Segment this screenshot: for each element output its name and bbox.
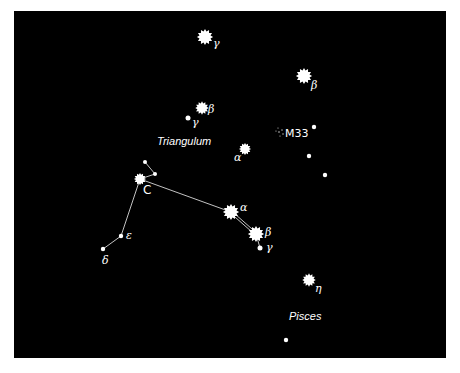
star-psc_dot	[284, 338, 288, 342]
star-dot_r1	[312, 125, 316, 129]
stars	[101, 29, 327, 342]
m33-galaxy-icon	[275, 127, 283, 136]
label-ari-gamma: γ	[266, 242, 273, 253]
label-ari-alpha: α	[240, 202, 247, 213]
label-epsilon: ε	[126, 230, 132, 241]
star-c_top	[143, 160, 147, 164]
label-c: C	[143, 184, 151, 196]
label-tri-gamma: γ	[192, 117, 199, 128]
star-dot_r3	[323, 173, 327, 177]
star-and_beta	[296, 68, 312, 84]
label-psc-eta: η	[315, 283, 322, 294]
star-chart	[0, 0, 460, 373]
label-tri-alpha: α	[234, 152, 241, 163]
star-tri_beta	[195, 101, 209, 115]
star-ari_gamma	[258, 246, 263, 251]
star-dot_r2	[307, 154, 311, 158]
star-and_gamma	[197, 29, 213, 45]
label-m33: M33	[285, 128, 309, 139]
star-epsilon	[119, 234, 123, 238]
star-tri_gamma	[186, 116, 191, 121]
label-and-beta: β	[311, 80, 317, 91]
star-psc_eta	[302, 273, 316, 287]
star-delta	[101, 247, 105, 251]
star-c_right	[153, 172, 157, 176]
label-ari-beta: β	[265, 227, 271, 238]
label-delta: δ	[102, 255, 109, 266]
label-tri-beta: β	[208, 104, 214, 115]
star-ari_beta	[248, 226, 264, 242]
label-pisces: Pisces	[289, 311, 321, 322]
label-and-gamma: γ	[213, 38, 220, 49]
star-ari_alpha	[223, 204, 239, 220]
label-triangulum: Triangulum	[157, 136, 211, 147]
